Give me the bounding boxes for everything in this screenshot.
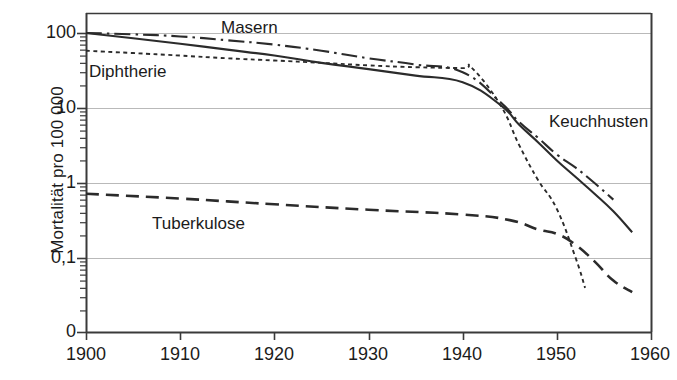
- mortality-line-chart: Mortalität pro 100 000 100 10 1 0,1 0 19…: [0, 0, 677, 380]
- series-path-keuchhusten: [86, 33, 632, 232]
- series-path-masern: [86, 33, 613, 200]
- series-label-diphtherie: Diphtherie: [89, 62, 167, 82]
- y-tick-label: 100: [46, 22, 76, 43]
- x-tick-1950: 1950: [521, 344, 591, 365]
- series-path-tuberkulose: [86, 194, 632, 292]
- plot-area: [0, 0, 677, 380]
- series-label-keuchhusten: Keuchhusten: [549, 112, 648, 132]
- y-tick-label: 0,1: [51, 247, 76, 268]
- plot-frame: [86, 13, 652, 333]
- y-tick-label: 1: [66, 172, 76, 193]
- x-tick-1900: 1900: [51, 344, 121, 365]
- y-axis-title: Mortalität pro 100 000: [48, 20, 68, 320]
- y-tick-label: 0: [66, 321, 76, 342]
- series-label-tuberkulose: Tuberkulose: [152, 214, 245, 234]
- x-tick-1910: 1910: [145, 344, 215, 365]
- data-series: [86, 33, 632, 292]
- x-tick-1940: 1940: [427, 344, 497, 365]
- x-tick-1960: 1960: [615, 344, 677, 365]
- series-label-masern: Masern: [221, 18, 278, 38]
- x-tick-1920: 1920: [239, 344, 309, 365]
- series-path-diphtherie: [86, 51, 585, 288]
- x-tick-1930: 1930: [333, 344, 403, 365]
- y-tick-label: 10: [56, 97, 76, 118]
